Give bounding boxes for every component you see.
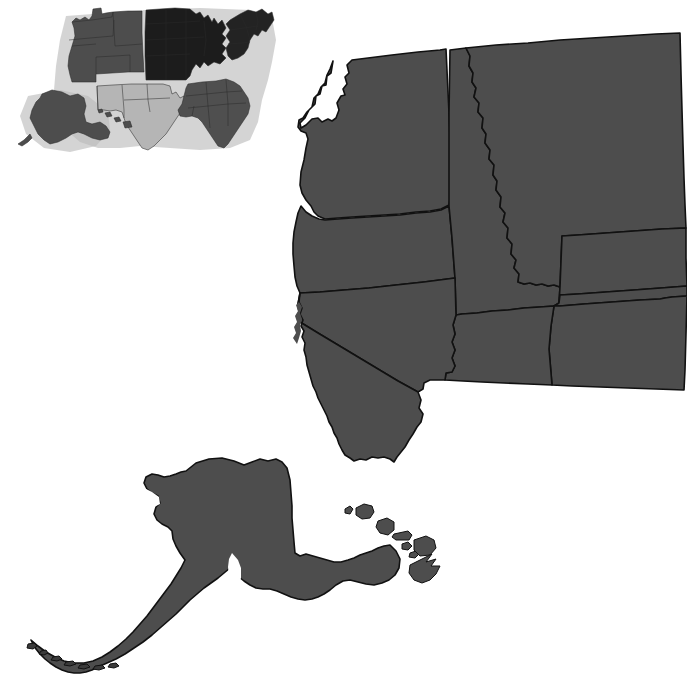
map-canvas [0,0,687,698]
us-locator-inset [0,0,687,698]
